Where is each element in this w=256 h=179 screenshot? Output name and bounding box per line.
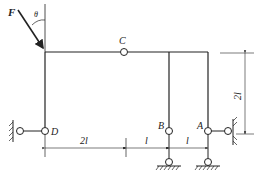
link-a-wall-hinge [225, 128, 232, 135]
link-d-wall-hinge [17, 128, 24, 135]
support-b-hinge [166, 159, 173, 166]
frame-diagram: F θ C D B A [0, 0, 256, 179]
hinge-a-label: A [196, 120, 204, 131]
dimension-label-height: 2l [232, 92, 243, 100]
dimension-label-d-to-b: 2l [80, 135, 88, 146]
hinge-c-label: C [119, 35, 126, 46]
force-arrow [18, 10, 43, 48]
ground-support-a [195, 166, 220, 170]
angle-label: θ [34, 10, 38, 19]
hinge-c [121, 49, 128, 56]
support-a-hinge [205, 159, 212, 166]
left-wall-support [9, 120, 13, 142]
angle-arc [32, 20, 45, 25]
hinge-d-label: D [50, 126, 59, 137]
right-wall-support [233, 117, 237, 145]
hinge-b [166, 128, 173, 135]
ground-support-b [156, 166, 181, 170]
hinge-b-label: B [158, 120, 164, 131]
hinge-d [42, 128, 49, 135]
force-label: F [7, 6, 16, 18]
hinge-a [205, 128, 212, 135]
dimension-label-b-to-mid: l [145, 135, 148, 146]
dimension-label-mid-to-a: l [186, 135, 189, 146]
horizontal-dimension [45, 138, 208, 157]
